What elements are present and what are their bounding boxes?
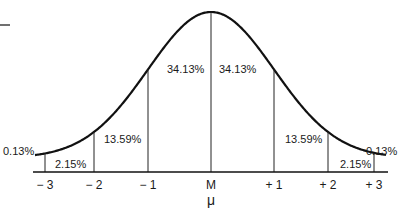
mu-symbol: μ [207, 192, 215, 208]
tick-p2: + 2 [319, 178, 336, 192]
tick-p1: + 1 [265, 178, 282, 192]
label-band-p1-p2: 13.59% [285, 133, 323, 145]
label-tail-right: 0.13% [366, 145, 397, 157]
tick-zero: M [206, 178, 216, 192]
label-band-0-p1: 34.13% [219, 63, 257, 75]
label-band-m3-m2: 2.15% [55, 158, 86, 170]
tick-m3: − 3 [36, 178, 53, 192]
normal-distribution-chart: 0.13% 2.15% 13.59% 34.13% 34.13% 13.59% … [0, 0, 416, 214]
tick-m2: − 2 [85, 178, 102, 192]
label-band-p2-p3: 2.15% [340, 158, 371, 170]
tick-p3: + 3 [365, 178, 382, 192]
sd-lines [45, 12, 374, 172]
label-band-m2-m1: 13.59% [104, 133, 142, 145]
tick-m1: − 1 [139, 178, 156, 192]
label-tail-left: 0.13% [3, 145, 34, 157]
label-band-m1-0: 34.13% [167, 63, 205, 75]
